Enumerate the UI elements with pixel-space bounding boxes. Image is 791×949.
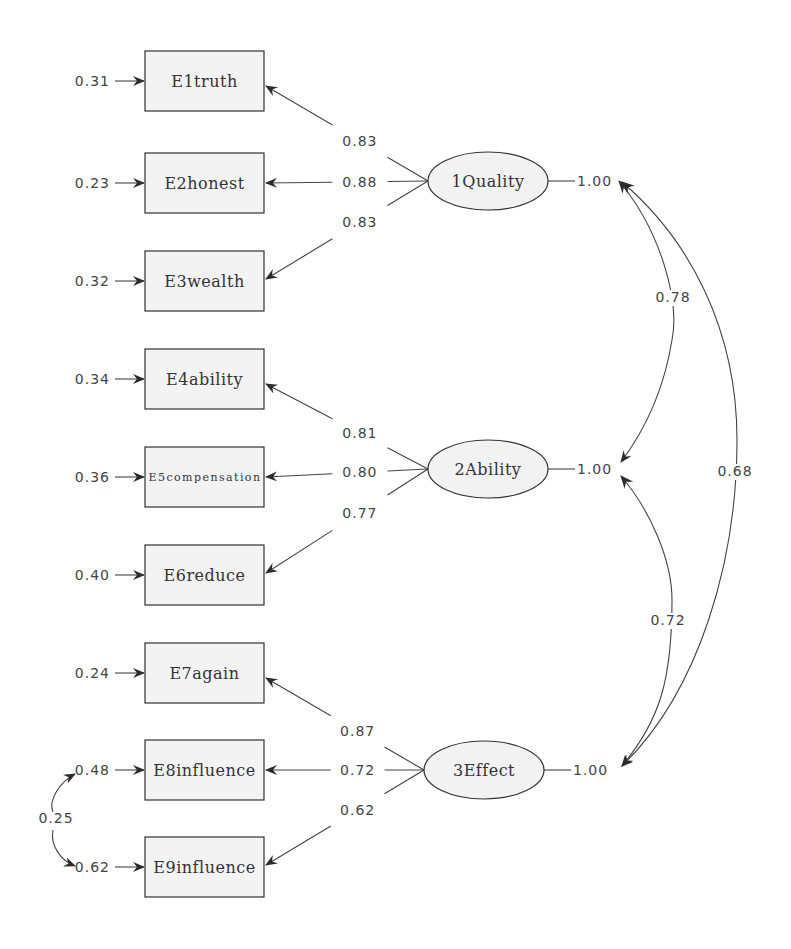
loading-arrow — [266, 678, 331, 716]
loading-arrow — [266, 474, 332, 477]
error-variance-label: 0.23 — [75, 175, 110, 191]
observed-label: E4ability — [166, 370, 243, 389]
error-variance-label: 0.31 — [75, 73, 110, 89]
loading-value-label: 0.87 — [340, 723, 375, 739]
loading-line — [388, 469, 429, 471]
error-covariance-arrow-down — [52, 830, 75, 866]
observed-label: E9influence — [153, 858, 255, 877]
observed-label: E6reduce — [164, 566, 246, 585]
observed-label: E8influence — [153, 761, 255, 780]
observed-label: E1truth — [171, 72, 237, 91]
loading-line — [388, 157, 429, 181]
loading-arrow — [266, 182, 332, 183]
error-variance-label: 0.34 — [75, 371, 110, 387]
latent-label: 2Ability — [455, 460, 522, 479]
factor-variance-label: 1.00 — [577, 173, 612, 189]
loading-line — [385, 747, 425, 770]
loading-value-label: 0.88 — [342, 174, 377, 190]
loading-value-label: 0.72 — [340, 762, 375, 778]
cfa-path-diagram: E1truthE2honestE3wealthE4abilityE5compen… — [0, 0, 791, 949]
observed-variable-e3: E3wealth — [145, 251, 264, 311]
loading-line — [388, 181, 429, 182]
observed-variable-e7: E7again — [145, 643, 264, 703]
loading-value-label: 0.80 — [342, 464, 377, 480]
observed-label: E5compensation — [149, 471, 261, 484]
error-covariance-label: 0.25 — [38, 810, 73, 826]
factor-correlation-arrow — [619, 181, 674, 462]
error-variance-label: 0.40 — [75, 567, 110, 583]
loading-arrow — [266, 239, 332, 279]
error-covariance-arrow-up — [52, 774, 75, 812]
loading-line — [388, 469, 429, 495]
observed-label: E2honest — [164, 174, 244, 193]
loading-arrow — [266, 826, 331, 865]
error-variance-label: 0.48 — [75, 762, 110, 778]
observed-variable-e2: E2honest — [145, 153, 264, 213]
factor-correlation-label: 0.68 — [717, 463, 752, 479]
latent-factor-1quality: 1Quality — [428, 152, 548, 210]
observed-variable-e4: E4ability — [145, 349, 264, 409]
factor-variance-label: 1.00 — [573, 762, 608, 778]
latent-factor-3effect: 3Effect — [424, 741, 544, 799]
observed-variable-e8: E8influence — [145, 740, 264, 800]
observed-label: E7again — [169, 664, 239, 683]
observed-variable-e1: E1truth — [145, 51, 264, 111]
observed-variable-e9: E9influence — [145, 837, 264, 897]
loading-arrow — [266, 384, 332, 419]
loading-value-label: 0.83 — [342, 214, 377, 230]
loading-value-label: 0.83 — [342, 133, 377, 149]
loading-value-label: 0.81 — [342, 425, 377, 441]
loading-value-label: 0.62 — [340, 802, 375, 818]
error-variance-label: 0.32 — [75, 273, 110, 289]
loading-arrow — [266, 530, 332, 573]
loading-line — [385, 770, 425, 794]
observed-variable-e6: E6reduce — [145, 545, 264, 605]
observed-label: E3wealth — [164, 272, 244, 291]
error-variance-label: 0.24 — [75, 665, 110, 681]
latent-label: 3Effect — [453, 761, 515, 780]
factor-variance-label: 1.00 — [577, 461, 612, 477]
loading-line — [388, 181, 429, 206]
factor-correlation-label: 0.72 — [650, 612, 685, 628]
error-variance-label: 0.62 — [75, 859, 110, 875]
latent-label: 1Quality — [452, 172, 525, 191]
loading-value-label: 0.77 — [342, 505, 377, 521]
loading-arrow — [266, 86, 332, 125]
loading-line — [388, 448, 429, 469]
latent-factor-2ability: 2Ability — [428, 440, 548, 498]
error-variance-label: 0.36 — [75, 469, 110, 485]
factor-correlation-label: 0.78 — [655, 289, 690, 305]
observed-variable-e5: E5compensation — [145, 447, 264, 507]
